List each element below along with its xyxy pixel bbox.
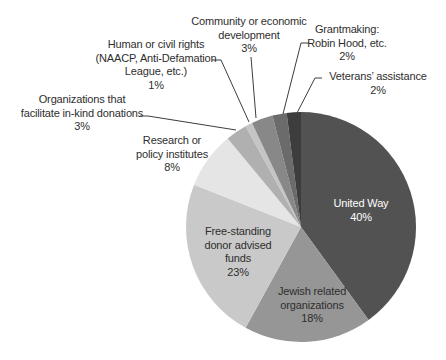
label-line: 2% xyxy=(329,84,426,98)
label-line: 3% xyxy=(21,120,143,134)
label-line: United Way xyxy=(334,197,389,211)
label-line: Free-standing xyxy=(204,225,271,239)
slice-inner-label: Jewish relatedorganizations18% xyxy=(278,285,346,326)
leader-line xyxy=(140,116,236,130)
label-line: Community or economic xyxy=(191,15,306,29)
label-line: donor advised xyxy=(204,239,271,253)
label-line: Veterans’ assistance xyxy=(329,70,426,84)
label-line: League, etc.) xyxy=(95,65,216,79)
label-line: 8% xyxy=(136,161,208,175)
slice-inner-label: Free-standingdonor advisedfunds23% xyxy=(204,225,271,279)
slice-callout-label: Research orpolicy institutes8% xyxy=(136,134,208,175)
slice-callout-label: Community or economicdevelopment3% xyxy=(191,15,306,56)
label-line: Research or xyxy=(136,134,208,148)
label-line: funds xyxy=(204,252,271,266)
leader-line xyxy=(251,57,256,118)
slice-inner-label: United Way40% xyxy=(334,197,389,224)
label-line: Jewish related xyxy=(278,285,346,299)
label-line: development xyxy=(191,29,306,43)
label-line: 23% xyxy=(204,266,271,280)
label-line: facilitate in-kind donations xyxy=(21,107,143,121)
label-line: Organizations that xyxy=(21,93,143,107)
label-line: 40% xyxy=(334,211,389,225)
leader-line xyxy=(212,60,249,122)
pie-chart-figure: United Way40%Jewish relatedorganizations… xyxy=(0,0,446,360)
slice-callout-label: Grantmaking:Robin Hood, etc.2% xyxy=(307,23,387,64)
label-line: Robin Hood, etc. xyxy=(307,37,387,51)
slice-callout-label: Organizations thatfacilitate in-kind don… xyxy=(21,93,143,134)
label-line: policy institutes xyxy=(136,148,208,162)
leader-line xyxy=(297,78,322,113)
slice-callout-label: Veterans’ assistance2% xyxy=(329,70,426,97)
label-line: 1% xyxy=(95,79,216,93)
label-line: organizations xyxy=(278,299,346,313)
label-line: 2% xyxy=(307,50,387,64)
label-line: Grantmaking: xyxy=(307,23,387,37)
label-line: 18% xyxy=(278,312,346,326)
label-line: 3% xyxy=(191,42,306,56)
